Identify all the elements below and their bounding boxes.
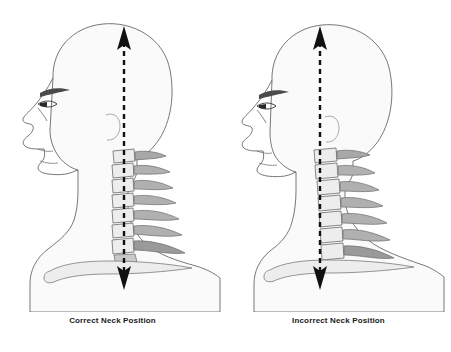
chin-line-incorrect: [259, 163, 277, 165]
eye-crease-incorrect: [257, 110, 266, 123]
spinous-process-c4-incorrect: [341, 197, 383, 207]
correct-posture-figure: [0, 0, 225, 312]
vertebra-c5-incorrect: [319, 211, 342, 227]
vertebra-c4-incorrect: [318, 195, 341, 211]
spinous-process-c3-correct: [134, 180, 173, 189]
eye-crease-correct: [38, 108, 47, 121]
caption-incorrect: Incorrect Neck Position: [226, 316, 451, 325]
panel-incorrect-neck-position: Incorrect Neck Position: [226, 0, 451, 352]
spinous-process-c3-incorrect: [340, 181, 379, 191]
panel-correct-neck-position: Correct Neck Position: [0, 0, 225, 352]
spinous-process-c2-incorrect: [338, 165, 375, 175]
spinous-process-c2-correct: [134, 165, 170, 174]
neck-position-illustration: Correct Neck Position: [0, 0, 451, 352]
spinous-process-c4-correct: [134, 195, 176, 204]
spinous-process-c5-incorrect: [342, 213, 387, 224]
vertebra-c6-incorrect: [320, 227, 343, 243]
spinous-process-c1-correct: [135, 151, 166, 160]
caption-correct: Correct Neck Position: [0, 316, 225, 325]
chin-line-correct: [40, 161, 58, 163]
spinous-process-c6-incorrect: [343, 230, 390, 242]
incorrect-posture-figure: [226, 0, 451, 312]
spinous-process-c6-correct: [134, 225, 182, 236]
spinous-process-c5-correct: [134, 210, 179, 220]
vertebra-c1-incorrect: [314, 148, 337, 163]
vertebra-c7-incorrect: [321, 243, 344, 260]
vertebra-c2-incorrect: [315, 163, 338, 179]
